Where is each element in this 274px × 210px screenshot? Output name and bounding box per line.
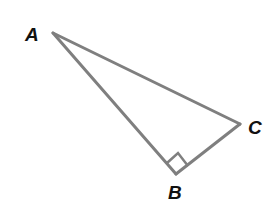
vertex-label-c: C <box>248 117 262 138</box>
side-bc <box>176 124 240 174</box>
vertex-label-b: B <box>168 182 182 203</box>
right-angle-marker <box>167 153 188 166</box>
triangle-diagram: A B C <box>0 0 274 210</box>
side-ab <box>53 33 176 174</box>
vertex-label-a: A <box>24 24 39 45</box>
side-ac <box>53 33 240 124</box>
